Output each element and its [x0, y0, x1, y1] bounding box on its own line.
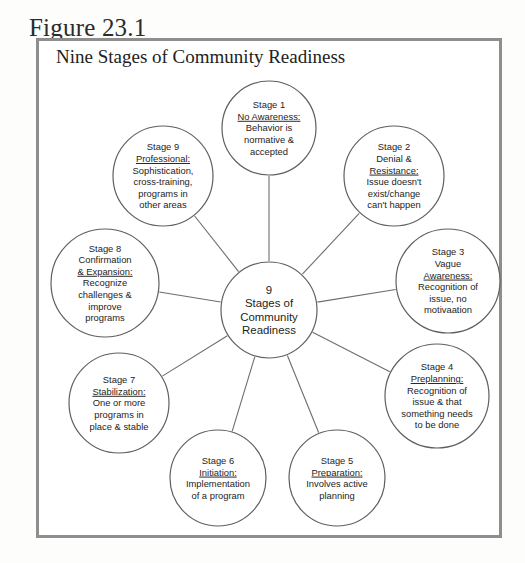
spoke-to-stage-2 [302, 213, 359, 274]
spoke-to-stage-6 [232, 357, 255, 431]
stage-node-8[interactable]: Stage 8Confirmation& Expansion:Recognize… [51, 229, 159, 337]
stage-node-7[interactable]: Stage 7Stabilization:One or moreprograms… [69, 353, 169, 453]
radial-stages-diagram: Stage 1No Awareness:Behavior isnormative… [0, 0, 525, 563]
stage-node-1[interactable]: Stage 1No Awareness:Behavior isnormative… [222, 81, 316, 175]
spoke-to-stage-9 [195, 216, 239, 272]
center-hub: 9Stages ofCommunityReadiness [221, 262, 317, 358]
spoke-to-stage-7 [162, 336, 227, 376]
stage-node-4[interactable]: Stage 4Preplanning:Recognition ofissue &… [385, 344, 489, 448]
spoke-to-stage-3 [317, 289, 395, 302]
stage-node-9[interactable]: Stage 9Professional:Sophistication,cross… [113, 126, 213, 226]
stage-node-2[interactable]: Stage 2Denial &Resistance:Issue doesn'te… [344, 126, 444, 226]
figure-page: Figure 23.1 Nine Stages of Community Rea… [0, 0, 525, 563]
stage-node-6[interactable]: Stage 6Initiation:Implementationof a pro… [170, 430, 266, 526]
stage-node-5[interactable]: Stage 5Preparation:Involves activeplanni… [289, 430, 385, 526]
spoke-to-stage-5 [287, 355, 318, 432]
stage-node-3[interactable]: Stage 3VagueAwareness:Recognition ofissu… [396, 229, 500, 333]
spoke-to-stage-8 [159, 292, 220, 302]
spoke-to-stage-4 [313, 332, 390, 372]
